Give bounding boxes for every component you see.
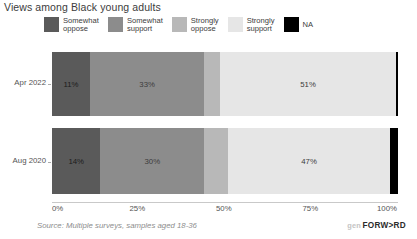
x-axis-tick-label: 100% (377, 204, 397, 213)
legend-item-label: Strongly oppose (191, 17, 219, 33)
bar-segment[interactable]: 14% (52, 128, 100, 194)
bar-segment-value-label: 14% (68, 157, 84, 166)
legend-item[interactable]: Strongly oppose (172, 17, 219, 33)
legend-item-label: NA (303, 17, 314, 29)
source-note: Source: Multiple surveys, samples aged 1… (37, 221, 197, 230)
legend-swatch-icon (44, 17, 59, 32)
bar-segment[interactable]: 47% (228, 128, 391, 194)
chart-title: Views among Black young adults (4, 1, 161, 13)
bar-segment[interactable] (204, 52, 220, 116)
bar-row: 11%33%51% (52, 52, 398, 116)
bar-segment[interactable] (390, 128, 398, 194)
y-axis-tick-label: Aug 2020 (4, 156, 46, 165)
legend-swatch-icon (172, 17, 187, 32)
legend-item-label: Strongly support (247, 17, 275, 33)
bar-segment[interactable] (204, 128, 228, 194)
bar-segment-value-label: 30% (145, 157, 161, 166)
chart-legend: Somewhat opposeSomewhat supportStrongly … (44, 17, 322, 33)
bar-segment[interactable]: 30% (100, 128, 204, 194)
bar-segment[interactable] (396, 52, 398, 116)
bar-segment[interactable]: 33% (90, 52, 204, 116)
legend-item-label: Somewhat support (127, 17, 163, 33)
brand-prefix: gen (347, 221, 361, 230)
x-axis-tick-label: 0% (52, 204, 63, 213)
x-axis-tick-label: 75% (303, 204, 319, 213)
brand-logo: gen FORW>RD (347, 221, 406, 230)
plot-area: 11%33%51%Apr 202214%30%47%Aug 2020 (52, 44, 398, 202)
x-axis-tick-label: 50% (216, 204, 232, 213)
bar-segment-value-label: 11% (64, 80, 79, 89)
bar-segment-value-label: 47% (301, 157, 317, 166)
bar-segment[interactable]: 51% (220, 52, 396, 116)
y-axis-tick-label: Apr 2022 (4, 78, 46, 87)
bar-row: 14%30%47% (52, 128, 398, 194)
x-axis-line (52, 202, 398, 203)
bar-segment-value-label: 33% (139, 80, 155, 89)
brand-name: FORW>RD (362, 221, 406, 230)
y-axis-tick-mark (48, 162, 51, 163)
legend-item[interactable]: NA (284, 17, 314, 32)
x-axis-tick-label: 25% (130, 204, 146, 213)
legend-swatch-icon (284, 17, 299, 32)
legend-item[interactable]: Somewhat oppose (44, 17, 99, 33)
bar-segment[interactable]: 11% (52, 52, 90, 116)
y-axis-tick-mark (48, 84, 51, 85)
legend-item-label: Somewhat oppose (63, 17, 99, 33)
legend-item[interactable]: Strongly support (228, 17, 275, 33)
legend-swatch-icon (228, 17, 243, 32)
legend-item[interactable]: Somewhat support (108, 17, 163, 33)
chart-container: Views among Black young adults Somewhat … (0, 0, 417, 239)
legend-swatch-icon (108, 17, 123, 32)
bar-segment-value-label: 51% (300, 80, 316, 89)
